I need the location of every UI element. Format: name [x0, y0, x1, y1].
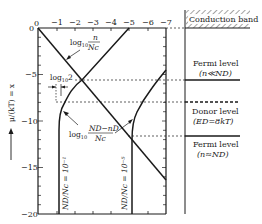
annotation-log-nd: log10 ND−nD Nc — [63, 111, 133, 143]
curve1-label: ND/Nc = 10⁻¹ — [61, 157, 70, 211]
curve2-label: ND/Nc = 10⁻⁵ — [120, 157, 129, 211]
diagram-canvas: 0 −1 −2 −3 −4 −5 −6 −7 0 −5 −10 −15 −20 … — [0, 0, 262, 224]
donor-level-label: Donor level — [192, 107, 239, 116]
band-diagram: Conduction band Fermi level (n≪ND) Donor… — [185, 10, 260, 214]
svg-text:n: n — [93, 33, 98, 42]
svg-text:log10: log10 — [70, 38, 88, 48]
y-axis-title: μ/(kT) = x — [7, 83, 16, 122]
annotation-log-n-nc: log10 n Nc — [66, 33, 100, 60]
donor-level-condition: (ED=8kT) — [193, 117, 233, 126]
x-tick-label: −5 — [123, 18, 135, 27]
curve-nd-1e-5 — [132, 70, 166, 214]
log2-marker — [48, 84, 68, 102]
y-axis-ticks — [38, 37, 166, 204]
y-tick-labels: 0 −5 −10 −15 −20 — [21, 24, 38, 219]
x-tick-label: −3 — [87, 18, 99, 27]
fermi-level-2-condition: (n≈ND) — [197, 150, 229, 159]
x-tick-label: −7 — [160, 18, 172, 27]
x-tick-label: −4 — [105, 18, 117, 27]
svg-text:log10: log10 — [69, 130, 87, 140]
svg-text:ND−nD: ND−nD — [88, 124, 119, 133]
fermi-level-1-label: Fermi level — [193, 59, 239, 68]
x-tick-labels: 0 −1 −2 −3 −4 −5 −6 −7 — [34, 18, 172, 28]
y-tick-label: −15 — [21, 163, 38, 172]
y-axis-label: μ/(kT) = x — [7, 83, 16, 160]
svg-text:Nc: Nc — [87, 43, 100, 52]
y-tick-label: −5 — [25, 70, 37, 79]
log2-label: log102 — [50, 73, 73, 83]
svg-text:Nc: Nc — [94, 134, 107, 143]
x-tick-label: −6 — [142, 18, 154, 27]
curve-log-n-nc — [38, 28, 166, 180]
arrow-up-icon — [9, 128, 14, 134]
x-tick-label: −1 — [51, 18, 63, 27]
y-tick-label: −20 — [21, 210, 38, 219]
fermi-level-1-condition: (n≪ND) — [199, 69, 232, 78]
y-tick-label: −10 — [21, 117, 38, 126]
fermi-level-2-label: Fermi level — [193, 140, 239, 149]
plot-frame — [38, 28, 166, 214]
x-tick-label: 0 — [34, 19, 39, 28]
conduction-band-label: Conduction band — [189, 15, 258, 24]
x-tick-label: −2 — [69, 18, 81, 27]
y-tick-label: 0 — [29, 24, 34, 33]
